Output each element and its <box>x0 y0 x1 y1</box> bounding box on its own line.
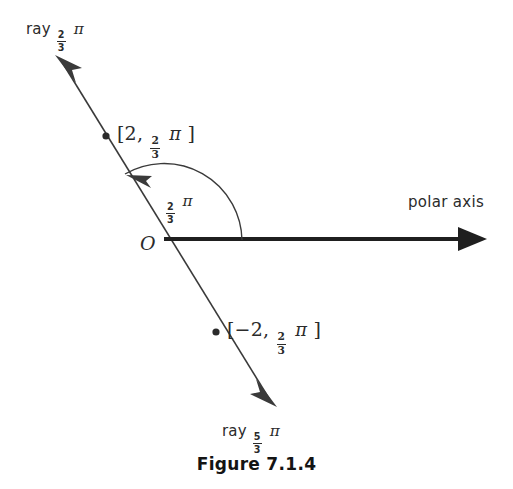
ray-lower-label: ray 5 3 π <box>222 424 280 454</box>
polar-axis-label: polar axis <box>408 195 484 210</box>
point-negative-fraction: 2 3 <box>277 332 287 356</box>
ray-upper-numerator: 2 <box>57 30 66 41</box>
ray-upper-denominator: 3 <box>57 41 66 53</box>
point-positive-pi-symbol: π <box>169 123 181 144</box>
point-positive-fraction: 2 3 <box>150 136 160 160</box>
point-negative-close-bracket: ] <box>314 318 322 340</box>
point-marker-positive <box>102 132 109 139</box>
ray-lower-numerator: 5 <box>253 432 262 443</box>
point-label-positive: [2, 2 3 π ] <box>117 124 195 161</box>
point-positive-open-bracket: [2, <box>117 122 143 144</box>
polar-diagram-canvas <box>0 0 513 489</box>
point-positive-close-bracket: ] <box>187 122 195 144</box>
ray-lower-denominator: 3 <box>253 443 262 455</box>
point-marker-negative <box>212 328 219 335</box>
ray-upper-prefix: ray <box>26 20 51 38</box>
figure-caption: Figure 7.1.4 <box>0 456 513 473</box>
angle-denominator: 3 <box>166 213 175 225</box>
point-negative-numerator: 2 <box>277 332 287 344</box>
angle-numerator: 2 <box>166 202 175 213</box>
angle-fraction: 2 3 <box>166 202 175 224</box>
ray-lower-prefix: ray <box>222 422 247 440</box>
ray-lower-pi-symbol: π <box>270 422 280 440</box>
angle-measure-label: 2 3 π <box>165 194 193 224</box>
point-positive-numerator: 2 <box>150 136 160 148</box>
ray-lower-arrowhead-icon <box>250 379 277 407</box>
point-negative-denominator: 3 <box>277 344 287 357</box>
figure-container: ray 2 3 π [2, 2 3 π ] 2 3 π polar axis O… <box>0 0 513 489</box>
point-negative-open-bracket: [−2, <box>227 318 269 340</box>
ray-upper-fraction: 2 3 <box>57 30 66 52</box>
angle-pi-symbol: π <box>182 192 192 210</box>
ray-upper-arrowhead-icon <box>55 55 82 83</box>
origin-label: O <box>140 234 156 253</box>
point-label-negative: [−2, 2 3 π ] <box>227 320 321 357</box>
polar-axis-arrowhead-icon <box>458 227 487 251</box>
ray-upper-label: ray 2 3 π <box>26 22 84 52</box>
ray-lower-fraction: 5 3 <box>253 432 262 454</box>
point-positive-denominator: 3 <box>150 148 160 161</box>
ray-upper-pi-symbol: π <box>74 20 84 38</box>
point-negative-pi-symbol: π <box>295 319 307 340</box>
